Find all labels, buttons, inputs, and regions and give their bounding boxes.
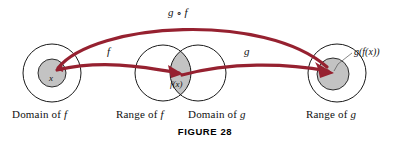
domain-of-g-label-prefix: Domain of: [188, 108, 240, 120]
composite-arrow-curve: [58, 30, 327, 68]
figure-caption: FIGURE 28: [0, 126, 410, 137]
gfx-point-label: g(f(x)): [354, 46, 380, 57]
domain-of-g-label: Domain of g: [188, 108, 246, 120]
figure-composition-diagram: g ∘ f f g x f(x) g(f(x)) Domain of f Ran…: [0, 0, 410, 143]
range-of-g-label-symbol: g: [351, 108, 357, 120]
domain-of-f-label-symbol: f: [64, 108, 67, 120]
g-arrow-curve: [182, 65, 328, 75]
f-map-label: f: [107, 45, 110, 57]
x-point-label: x: [49, 73, 53, 83]
range-of-g-label: Range of g: [306, 108, 356, 120]
range-of-f-label-symbol: f: [161, 108, 164, 120]
composite-map-label: g ∘ f: [168, 6, 188, 18]
composition-diagram-svg: [0, 0, 410, 143]
range-of-f-label-prefix: Range of: [116, 108, 161, 120]
domain-of-f-label: Domain of f: [12, 108, 67, 120]
composite-map-label-operator: ∘: [174, 7, 185, 18]
f-arrow-curve: [57, 65, 179, 73]
range-of-f-label: Range of f: [116, 108, 164, 120]
g-map-label: g: [244, 45, 250, 57]
composite-map-label-f: f: [185, 6, 188, 18]
range-of-g-label-prefix: Range of: [306, 108, 351, 120]
domain-of-f-label-prefix: Domain of: [12, 108, 64, 120]
domain-of-g-label-symbol: g: [240, 108, 246, 120]
fx-point-label: f(x): [170, 79, 183, 89]
